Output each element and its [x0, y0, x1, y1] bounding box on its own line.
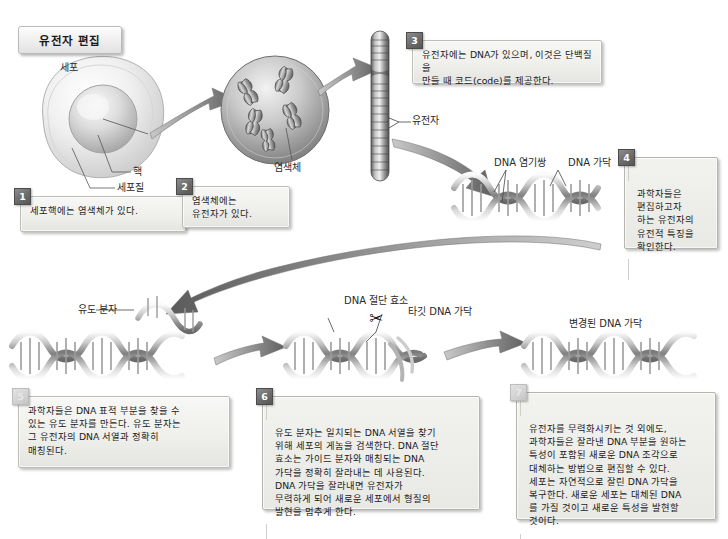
step-3-text: 유전자에는 DNA가 있으며, 이것은 단백질을 만들 때 코드(code)를 … — [413, 41, 601, 95]
step-2-callout: 2 염색체에는 유전자가 있다. — [182, 186, 290, 228]
scissors-icon: ✂ — [369, 310, 383, 327]
arrow-chromosome-to-dna — [392, 139, 492, 196]
arrow-cell-to-nucleus — [150, 88, 238, 139]
dna-helix-upper — [454, 170, 598, 222]
step-7-badge: 7 — [510, 384, 527, 401]
step-2-text: 염색체에는 유전자가 있다. — [183, 187, 289, 227]
step-2-badge: 2 — [176, 178, 193, 195]
step-1-callout: 1 세포핵에는 염색체가 있다. — [20, 196, 186, 232]
label-dna-cutting-enzyme: DNA 절단 효소 — [344, 295, 408, 306]
arrow-guide-to-cut — [214, 336, 286, 365]
label-cytoplasm: 세포질 — [117, 182, 144, 193]
step-7-text: 유전자를 무력화시키는 것 외에도, 과학자들은 잘라낸 DNA 부분을 원하는… — [520, 415, 712, 535]
chromosome-illustration — [371, 31, 411, 181]
cell-illustration — [43, 56, 164, 188]
label-dna-strand: DNA 가닥 — [568, 157, 611, 168]
arrow-nucleus-to-chromosome — [318, 58, 380, 96]
nucleus-chromosomes-illustration — [221, 56, 329, 164]
step-4-text: 과학자들은 편집하고자 하는 유전자의 유전적 특징을 확인한다. — [628, 180, 714, 260]
step-6-badge: 6 — [256, 388, 273, 405]
diagram-canvas: 유전자 편집 세포 핵 세포질 염색체 유전자 DNA 염기쌍 DNA 가닥 유… — [0, 0, 728, 539]
label-target-dna-strand: 타깃 DNA 가닥 — [408, 306, 472, 317]
label-modified-dna-strand: 변경된 DNA 가닥 — [569, 318, 642, 329]
dna-helix-cut — [286, 314, 424, 380]
step-6-text: 유도 분자는 일치되는 DNA 서열을 찾기 위해 세포의 게놈을 검색한다. … — [266, 419, 476, 525]
step-3-callout: 3 유전자에는 DNA가 있으며, 이것은 단백질을 만들 때 코드(code)… — [412, 40, 602, 84]
dna-helix-bottomleft — [12, 333, 182, 380]
label-chromosome: 염색체 — [274, 162, 301, 173]
label-gene: 유전자 — [412, 115, 439, 126]
step-1-badge: 1 — [14, 188, 31, 205]
step-6-callout: 6 유도 분자는 일치되는 DNA 서열을 찾기 위해 세포의 게놈을 검색한다… — [262, 396, 480, 510]
label-guide-molecule: 유도 분자 — [78, 304, 117, 315]
step-5-callout: 5 과학자들은 DNA 표적 부분을 찾을 수 있는 유도 분자를 만든다. 유… — [18, 396, 230, 468]
step-7-callout: 7 유전자를 무력화시키는 것 외에도, 과학자들은 잘라낸 DNA 부분을 원… — [516, 392, 716, 520]
step-3-badge: 3 — [406, 32, 423, 49]
dna-helix-modified — [524, 333, 694, 380]
label-nucleus: 핵 — [133, 166, 142, 177]
page-title: 유전자 편집 — [18, 26, 122, 54]
label-dna-base-pair: DNA 염기쌍 — [494, 157, 546, 168]
arrow-cut-to-modified — [444, 331, 526, 360]
step-5-badge: 5 — [12, 388, 29, 405]
label-cell: 세포 — [60, 62, 78, 73]
step-4-callout: 4 과학자들은 편집하고자 하는 유전자의 유전적 특징을 확인한다. — [624, 157, 718, 249]
step-5-text: 과학자들은 DNA 표적 부분을 찾을 수 있는 유도 분자를 만든다. 유도 … — [19, 397, 229, 464]
step-1-text: 세포핵에는 염색체가 있다. — [21, 197, 185, 224]
step-4-badge: 4 — [618, 149, 635, 166]
